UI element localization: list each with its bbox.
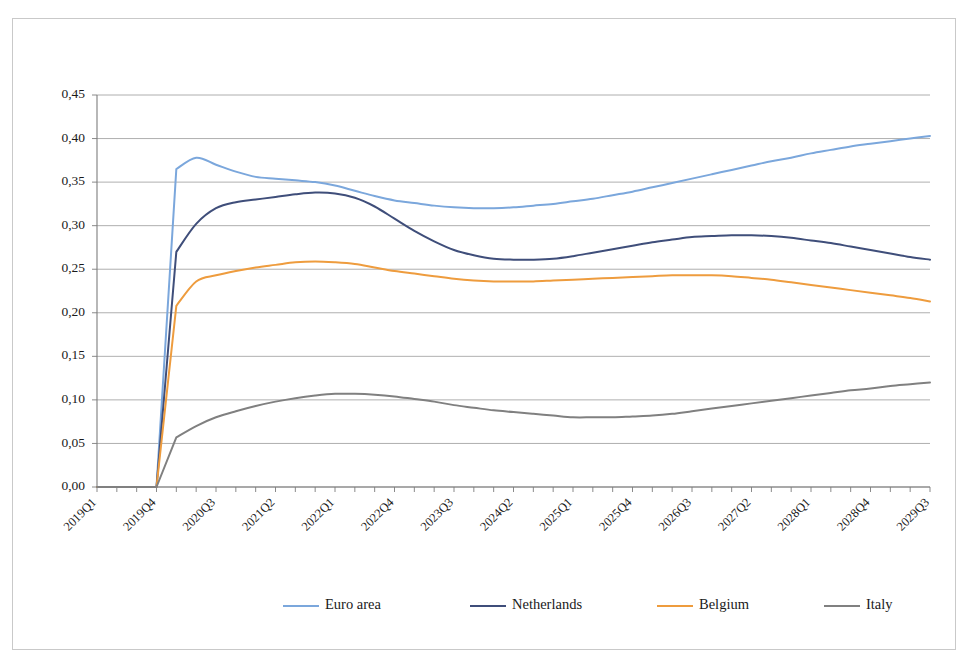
x-axis-tickmarks <box>97 487 930 492</box>
x-tick-label: 2029Q3 <box>894 495 932 533</box>
x-tick-label: 2025Q4 <box>596 495 635 534</box>
x-tick-label: 2026Q3 <box>656 495 694 533</box>
legend-label-italy: Italy <box>866 596 893 612</box>
y-axis-tick-labels: 0,000,050,100,150,200,250,300,350,400,45 <box>61 86 85 493</box>
line-chart: 0,000,050,100,150,200,250,300,350,400,45… <box>0 0 970 664</box>
y-tick-label: 0,25 <box>61 260 85 275</box>
legend-label-netherlands: Netherlands <box>512 596 582 612</box>
x-axis-tick-labels: 2019Q12019Q42020Q32021Q22022Q12022Q42023… <box>61 495 932 534</box>
chart-legend: Euro areaNetherlandsBelgiumItaly <box>283 596 893 612</box>
chart-page: 0,000,050,100,150,200,250,300,350,400,45… <box>0 0 970 664</box>
y-tick-label: 0,30 <box>61 217 85 232</box>
series-line-euro-area <box>97 136 930 487</box>
y-tick-label: 0,45 <box>61 86 85 101</box>
series-line-belgium <box>97 261 930 487</box>
series-line-netherlands <box>97 193 930 487</box>
x-tick-label: 2020Q3 <box>180 495 218 533</box>
x-tick-label: 2022Q4 <box>358 495 397 534</box>
data-series <box>97 136 930 487</box>
x-tick-label: 2028Q4 <box>834 495 873 534</box>
chart-canvas: 0,000,050,100,150,200,250,300,350,400,45… <box>0 0 970 664</box>
x-tick-label: 2024Q2 <box>477 495 515 533</box>
x-tick-label: 2027Q2 <box>715 495 753 533</box>
y-tick-label: 0,05 <box>61 435 85 450</box>
legend-label-euro-area: Euro area <box>325 596 382 612</box>
y-tick-label: 0,00 <box>61 478 85 493</box>
series-line-italy <box>97 382 930 487</box>
x-tick-label: 2025Q1 <box>537 495 575 533</box>
x-tick-label: 2019Q1 <box>61 495 99 533</box>
y-tick-label: 0,10 <box>61 391 85 406</box>
x-tick-label: 2021Q2 <box>239 495 277 533</box>
x-tick-label: 2023Q3 <box>418 495 456 533</box>
y-tick-label: 0,20 <box>61 304 85 319</box>
x-tick-label: 2028Q1 <box>775 495 813 533</box>
y-tick-label: 0,35 <box>61 173 85 188</box>
y-tick-label: 0,40 <box>61 130 85 145</box>
x-tick-label: 2022Q1 <box>299 495 337 533</box>
y-tick-label: 0,15 <box>61 347 85 362</box>
legend-label-belgium: Belgium <box>699 596 750 612</box>
x-tick-label: 2019Q4 <box>120 495 159 534</box>
